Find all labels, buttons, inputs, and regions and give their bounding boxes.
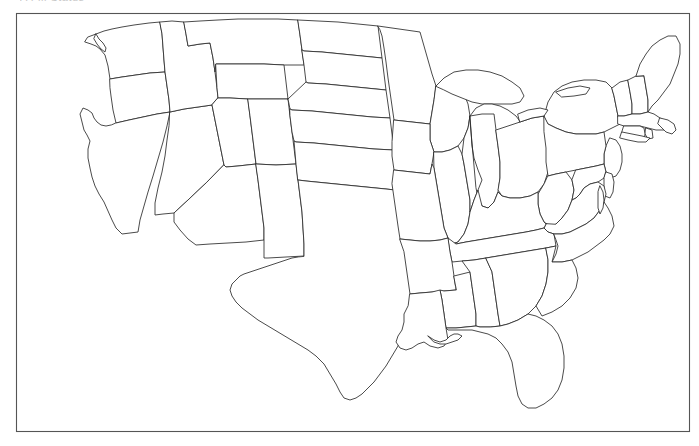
us-states-outline-map — [0, 0, 699, 446]
state-AR[interactable] — [400, 238, 456, 294]
state-OH[interactable] — [496, 116, 550, 198]
map-page: A Fill Status — [0, 0, 699, 446]
state-outlines-group — [80, 19, 680, 408]
state-WY[interactable] — [216, 64, 288, 99]
state-NM[interactable] — [256, 164, 304, 258]
map-svg — [0, 0, 699, 446]
state-CO[interactable] — [248, 99, 296, 165]
state-IA[interactable] — [392, 120, 434, 174]
cape-cod-detail — [658, 118, 676, 134]
state-FL[interactable] — [446, 314, 564, 408]
state-WA[interactable] — [85, 22, 165, 79]
